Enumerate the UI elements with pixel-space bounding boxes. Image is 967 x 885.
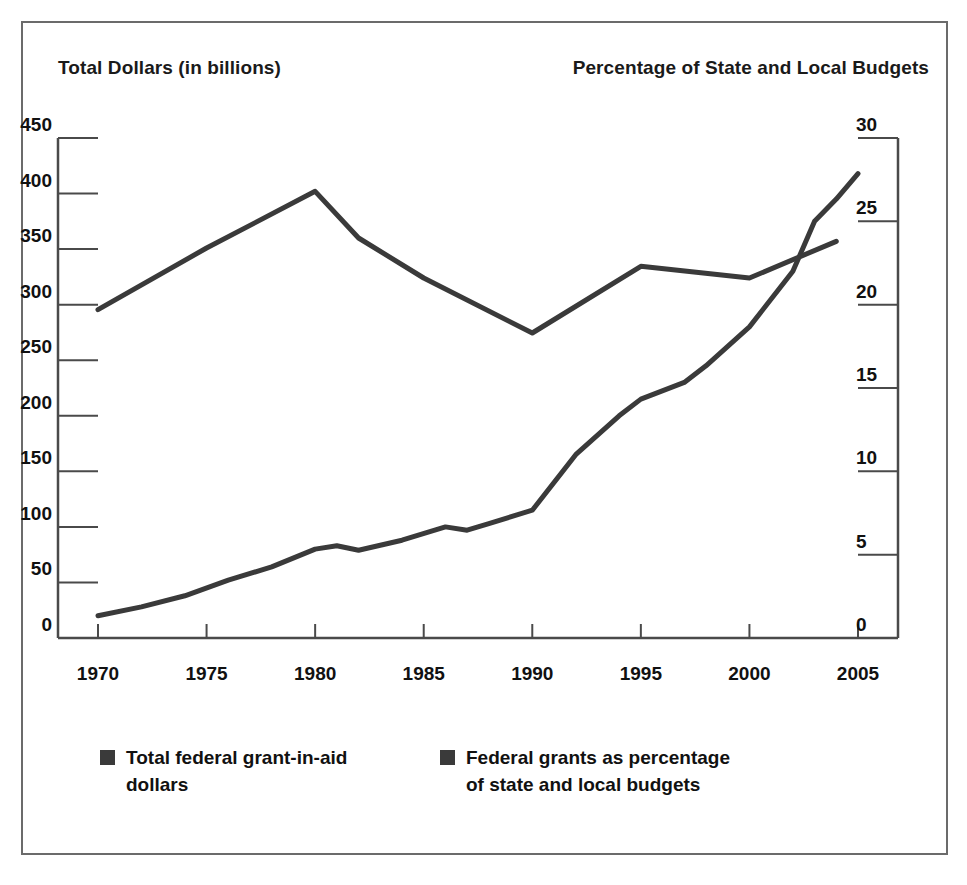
chart-figure: Total Dollars (in billions) Percentage o… bbox=[0, 0, 967, 885]
legend-label: Total federal grant-in-aid dollars bbox=[126, 745, 396, 799]
y-left-tick-label: 150 bbox=[0, 447, 52, 469]
y-right-tick-label: 0 bbox=[856, 614, 908, 636]
y-left-tick-label: 200 bbox=[0, 392, 52, 414]
x-tick-label: 1975 bbox=[172, 663, 242, 685]
y-right-tick-label: 15 bbox=[856, 364, 908, 386]
y-left-tick-label: 100 bbox=[0, 503, 52, 525]
legend-swatch-icon bbox=[440, 750, 455, 765]
chart-legend: Total federal grant-in-aid dollars Feder… bbox=[100, 745, 840, 799]
y-left-tick-label: 300 bbox=[0, 281, 52, 303]
legend-item-total-dollars: Total federal grant-in-aid dollars bbox=[100, 745, 396, 799]
y-right-tick-label: 5 bbox=[856, 531, 908, 553]
legend-label: Federal grants as percentage of state an… bbox=[466, 745, 736, 799]
y-left-tick-label: 50 bbox=[0, 558, 52, 580]
y-right-tick-label: 20 bbox=[856, 281, 908, 303]
x-tick-label: 2000 bbox=[714, 663, 784, 685]
x-tick-label: 1985 bbox=[389, 663, 459, 685]
legend-swatch-icon bbox=[100, 750, 115, 765]
y-left-tick-label: 250 bbox=[0, 336, 52, 358]
x-tick-label: 1970 bbox=[63, 663, 133, 685]
y-left-tick-label: 400 bbox=[0, 170, 52, 192]
y-left-tick-label: 350 bbox=[0, 225, 52, 247]
y-right-tick-label: 10 bbox=[856, 447, 908, 469]
y-left-tick-label: 450 bbox=[0, 114, 52, 136]
x-tick-label: 2005 bbox=[823, 663, 893, 685]
left-axis-title: Total Dollars (in billions) bbox=[58, 57, 281, 79]
legend-item-percentage: Federal grants as percentage of state an… bbox=[440, 745, 736, 799]
chart-frame bbox=[21, 21, 948, 855]
x-tick-label: 1990 bbox=[497, 663, 567, 685]
y-right-tick-label: 25 bbox=[856, 197, 908, 219]
y-left-tick-label: 0 bbox=[0, 614, 52, 636]
x-tick-label: 1980 bbox=[280, 663, 350, 685]
right-axis-title: Percentage of State and Local Budgets bbox=[573, 57, 929, 79]
x-tick-label: 1995 bbox=[606, 663, 676, 685]
y-right-tick-label: 30 bbox=[856, 114, 908, 136]
